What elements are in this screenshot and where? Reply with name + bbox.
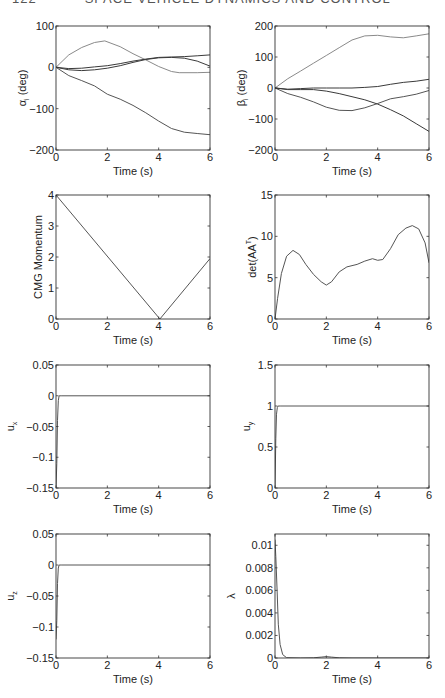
y-tick-label: 1 — [48, 282, 54, 294]
chart-u_x: 0246−0.15−0.1−0.0500.05Time (s)ux — [4, 359, 213, 515]
series-beta_3 — [275, 88, 429, 111]
y-tick-label: 200 — [255, 20, 273, 32]
x-tick-label: 6 — [426, 489, 432, 501]
y-axis-label: αi (deg) — [16, 70, 30, 107]
axes-box — [56, 534, 210, 658]
x-axis-label: Time (s) — [113, 673, 153, 685]
x-tick-label: 6 — [207, 151, 213, 163]
y-tick-label: 0 — [48, 390, 54, 402]
x-tick-label: 6 — [207, 320, 213, 332]
plot-area — [275, 540, 429, 658]
x-tick-label: 4 — [156, 489, 162, 501]
y-tick-label: 4 — [48, 189, 54, 201]
y-tick-label: 3 — [48, 220, 54, 232]
y-axis-label: uz — [4, 591, 18, 601]
x-tick-label: 6 — [426, 151, 432, 163]
y-tick-label: 10 — [261, 230, 273, 242]
series-ux — [56, 396, 210, 488]
y-tick-label: 0.006 — [245, 584, 273, 596]
x-tick-label: 6 — [207, 489, 213, 501]
y-tick-label: 100 — [36, 20, 54, 32]
x-tick-label: 2 — [104, 151, 110, 163]
axes-box — [56, 195, 210, 319]
series-det — [275, 226, 429, 319]
x-tick-label: 6 — [426, 320, 432, 332]
y-tick-label: 1.5 — [258, 359, 273, 371]
y-tick-label: 0 — [48, 61, 54, 73]
y-tick-label: −100 — [248, 113, 273, 125]
y-tick-label: 0.002 — [245, 629, 273, 641]
chart-lambda: 024600.0020.0040.0060.0080.01Time (s)λ — [225, 534, 432, 685]
y-tick-label: 100 — [255, 51, 273, 63]
y-axis-label: CMG Momentum — [32, 215, 44, 299]
x-axis-label: Time (s) — [113, 334, 153, 346]
series-momentum — [56, 195, 210, 319]
plot-area — [275, 226, 429, 319]
x-tick-label: 2 — [104, 489, 110, 501]
x-tick-label: 2 — [323, 151, 329, 163]
x-axis-label: Time (s) — [332, 334, 372, 346]
y-tick-label: −100 — [29, 103, 54, 115]
y-tick-label: −200 — [29, 144, 54, 156]
axes-box — [275, 365, 429, 488]
x-tick-label: 4 — [375, 659, 381, 671]
x-axis-label: Time (s) — [332, 503, 372, 515]
x-axis-label: Time (s) — [113, 503, 153, 515]
plot-area — [275, 406, 429, 488]
chart-alpha: 0246−200−1000100Time (s)αi (deg) — [16, 20, 213, 177]
y-tick-label: 0 — [267, 313, 273, 325]
series-alpha_4 — [56, 67, 210, 134]
y-tick-label: −200 — [248, 144, 273, 156]
x-tick-label: 4 — [375, 151, 381, 163]
y-axis-label: βi (deg) — [235, 70, 249, 107]
y-tick-label: −0.05 — [26, 421, 54, 433]
y-tick-label: −0.1 — [32, 451, 54, 463]
y-tick-label: 0.05 — [33, 359, 54, 371]
y-tick-label: −0.1 — [32, 621, 54, 633]
y-tick-label: 0.008 — [245, 562, 273, 574]
x-tick-label: 4 — [156, 151, 162, 163]
series-beta_1 — [275, 34, 429, 88]
series-alpha_2 — [56, 55, 210, 69]
y-axis-label: uy — [240, 421, 255, 431]
y-tick-label: 1 — [267, 400, 273, 412]
series-lambda — [275, 540, 429, 658]
y-tick-label: 5 — [267, 272, 273, 284]
plot-area — [56, 195, 210, 319]
x-tick-label: 2 — [323, 659, 329, 671]
axes-box — [275, 195, 429, 319]
plot-area — [56, 41, 210, 135]
series-beta_2 — [275, 79, 429, 89]
y-axis-label: λ — [225, 593, 237, 599]
axes-box — [56, 365, 210, 488]
y-tick-label: 0 — [267, 652, 273, 664]
series-beta_4 — [275, 88, 429, 131]
x-tick-label: 4 — [375, 320, 381, 332]
chart-u_z: 0246−0.15−0.1−0.0500.05Time (s)uz — [4, 528, 213, 685]
x-tick-label: 4 — [156, 320, 162, 332]
x-tick-label: 2 — [323, 489, 329, 501]
y-tick-label: 0 — [48, 559, 54, 571]
series-uy — [275, 406, 429, 488]
chart-det_aat: 0246051015Time (s)det(AAT) — [245, 189, 432, 346]
x-tick-label: 4 — [156, 659, 162, 671]
y-tick-label: −0.15 — [26, 482, 54, 494]
y-tick-label: 0 — [48, 313, 54, 325]
plot-area — [275, 34, 429, 132]
y-tick-label: 0 — [267, 482, 273, 494]
plot-area — [56, 565, 210, 639]
series-uz — [56, 565, 210, 639]
x-tick-label: 2 — [323, 320, 329, 332]
x-axis-label: Time (s) — [113, 165, 153, 177]
y-tick-label: 0.01 — [252, 539, 273, 551]
plot-area — [56, 396, 210, 488]
x-tick-label: 6 — [207, 659, 213, 671]
y-tick-label: 0 — [267, 82, 273, 94]
x-tick-label: 2 — [104, 659, 110, 671]
x-axis-label: Time (s) — [332, 165, 372, 177]
y-tick-label: −0.15 — [26, 652, 54, 664]
y-tick-label: 15 — [261, 189, 273, 201]
y-tick-label: 0.05 — [33, 528, 54, 540]
figure-grid: 0246−200−1000100Time (s)αi (deg)0246−200… — [0, 0, 445, 698]
y-tick-label: 2 — [48, 251, 54, 263]
